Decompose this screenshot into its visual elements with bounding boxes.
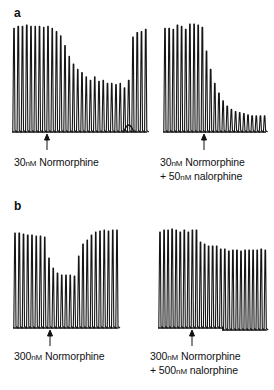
arrow-up-icon	[48, 330, 53, 346]
arrow-up-icon	[202, 134, 207, 150]
caption-a-right: 30nM Normorphine + 50nM nalorphine	[160, 156, 245, 184]
caption-b-left: 300nM Normorphine	[14, 350, 105, 364]
drug-arrows	[0, 0, 274, 390]
arrow-up-icon	[190, 330, 195, 346]
caption-b-right: 300nM Normorphine + 500nM nalorphine	[150, 350, 241, 378]
caption-a-left: 30nM Normorphine	[14, 156, 99, 170]
arrow-up-icon	[45, 134, 50, 150]
